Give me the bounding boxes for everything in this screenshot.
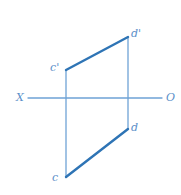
axis-label-x: X [16, 92, 24, 103]
vertex-label-d: d [131, 122, 138, 133]
figure-canvas: X O c' d' c d [0, 0, 181, 195]
segment-c-prime-d-prime [66, 37, 128, 70]
vertex-label-d-prime: d' [131, 28, 141, 39]
projection-drawing [0, 0, 181, 195]
segment-c-d [66, 129, 128, 177]
vertex-label-c: c [52, 172, 58, 183]
axis-label-o: O [166, 92, 175, 103]
vertex-label-c-prime: c' [50, 62, 59, 73]
